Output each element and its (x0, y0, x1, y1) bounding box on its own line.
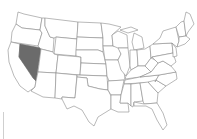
state-wyoming (54, 37, 77, 56)
state-north-dakota (77, 22, 103, 38)
state-wisconsin (112, 31, 128, 48)
us-map (0, 0, 197, 139)
us-map-svg (0, 0, 197, 139)
state-florida (134, 102, 167, 130)
state-new-mexico (55, 73, 77, 99)
state-massachusetts-ct-ri (177, 36, 190, 47)
state-colorado (56, 55, 81, 75)
state-maine (184, 12, 194, 36)
state-kansas (80, 63, 107, 76)
state-montana (45, 18, 78, 39)
